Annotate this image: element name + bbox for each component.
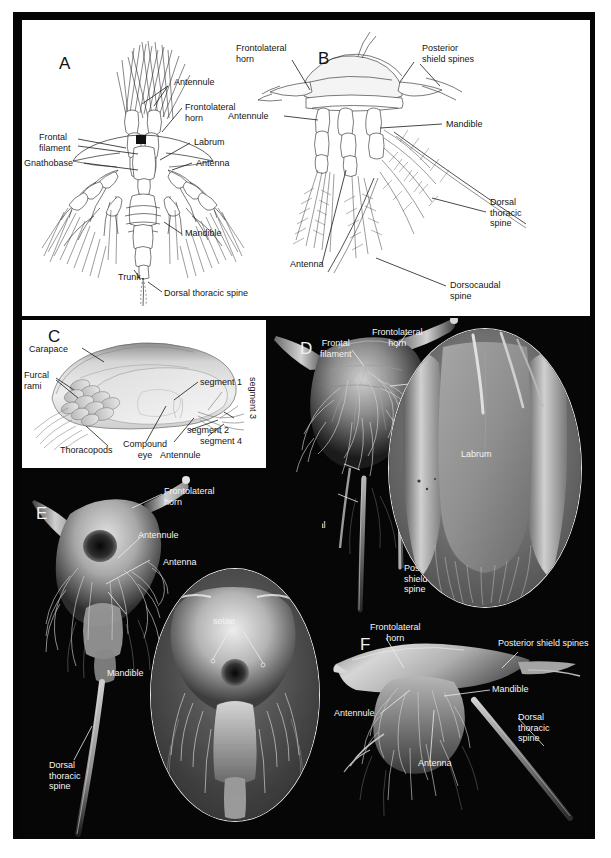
label-c-segment-1: segment 1 xyxy=(200,377,242,388)
label-a-frontal-filament: Frontal filament xyxy=(39,132,71,153)
label-e-dorsal-thoracic-spine: Dorsal thoracic spine xyxy=(49,760,81,792)
label-c-furcal-rami: Furcal rami xyxy=(24,370,49,391)
label-f-mandible: Mandible xyxy=(492,684,529,695)
panel-ab-white-drawings: A Antennule Frontolateral horn Frontal f… xyxy=(22,20,590,316)
label-e-mandible: Mandible xyxy=(107,668,144,679)
label-f-dorsal-thoracic-spine: Dorsal thoracic spine xyxy=(518,712,550,744)
panel-letter-b: B xyxy=(318,50,329,67)
panel-f-sem: F Frontolateral horn Posterior shield sp… xyxy=(322,614,590,839)
label-a-gnathobase: Gnathobase xyxy=(24,158,73,169)
panel-letter-a: A xyxy=(59,55,70,72)
panel-letter-c: C xyxy=(48,328,60,345)
label-a-antennule: Antennule xyxy=(174,77,215,88)
label-f-antenna: Antenna xyxy=(418,758,452,769)
label-c-antennule: Antennule xyxy=(160,450,201,461)
panel-b-artwork xyxy=(22,20,590,316)
label-b-mandible: Mandible xyxy=(446,119,483,130)
inset-setae-artwork xyxy=(151,569,319,821)
label-b-dorsocaudal-spine: Dorsocaudal spine xyxy=(450,280,501,301)
label-c-segment-3: segment 3 xyxy=(248,377,259,419)
label-b-posterior-shield-spines: Posterior shield spines xyxy=(422,43,474,64)
inset-setae-oval: setae xyxy=(150,568,320,822)
label-d-frontal-filament: Frontal filament xyxy=(320,338,352,359)
label-c-thoracopods: Thoracopods xyxy=(60,445,113,456)
panel-e-sem: E Frontolateral horn Antennule Antenna M… xyxy=(22,472,322,839)
panel-c-white-drawing: C Carapace Furcal rami segment 1 segment… xyxy=(22,320,266,468)
label-d-labrum: Labrum xyxy=(461,449,492,460)
label-e-antenna: Antenna xyxy=(163,557,197,568)
label-b-frontolateral-horn: Frontolateral horn xyxy=(236,43,287,64)
inset-labrum-artwork xyxy=(389,329,581,607)
panel-letter-e: E xyxy=(36,505,47,522)
label-a-dorsal-thoracic-spine: Dorsal thoracic spine xyxy=(164,288,248,299)
label-a-antenna: Antenna xyxy=(196,158,230,169)
label-e-frontolateral-horn: Frontolateral horn xyxy=(164,486,215,507)
label-c-segment-4: segment 4 xyxy=(200,436,242,447)
panel-letter-f: F xyxy=(360,636,370,653)
label-c-segment-2: segment 2 xyxy=(187,425,229,436)
label-b-dorsal-thoracic-spine: Dorsal thoracic spine xyxy=(490,197,522,229)
label-a-labrum: Labrum xyxy=(194,137,225,148)
label-f-antennule: Antennule xyxy=(334,708,375,719)
label-a-trunk: Trunk xyxy=(118,272,141,283)
label-f-posterior-shield-spines: Posterior shield spines xyxy=(498,638,589,649)
label-b-antenna: Antenna xyxy=(290,259,324,270)
label-e-setae: setae xyxy=(213,616,235,627)
label-f-frontolateral-horn: Frontolateral horn xyxy=(370,622,421,643)
label-c-carapace: Carapace xyxy=(29,344,68,355)
label-a-mandible: Mandible xyxy=(185,228,222,239)
panel-letter-d: D xyxy=(300,340,312,357)
figure-plate: A Antennule Frontolateral horn Frontal f… xyxy=(0,0,611,858)
label-b-antennule: Antennule xyxy=(228,111,269,122)
inset-labrum-oval: Labrum xyxy=(388,328,582,608)
label-e-antennule: Antennule xyxy=(138,530,179,541)
